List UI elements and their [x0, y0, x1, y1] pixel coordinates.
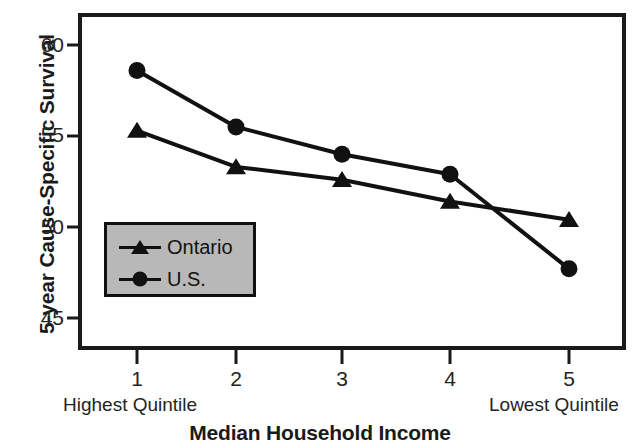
x-tick-label-1: 1: [117, 367, 157, 391]
chart-legend: Ontario U.S.: [104, 222, 256, 297]
annotation-lowest-quintile: Lowest Quintile: [489, 394, 619, 416]
legend-label-ontario: Ontario: [167, 236, 233, 259]
x-tick-label-3: 3: [322, 367, 362, 391]
data-point-circle: [442, 166, 459, 183]
annotation-highest-quintile: Highest Quintile: [63, 394, 197, 416]
x-axis-ticks: [137, 348, 569, 364]
circle-marker-icon: [117, 267, 163, 291]
data-point-triangle: [127, 122, 147, 138]
x-tick-label-4: 4: [430, 367, 470, 391]
data-point-circle: [334, 146, 351, 163]
x-tick-label-2: 2: [216, 367, 256, 391]
x-tick-label-5: 5: [549, 367, 589, 391]
data-point-circle: [561, 260, 578, 277]
x-axis-title: Median Household Income: [0, 421, 640, 441]
data-point-circle: [129, 62, 146, 79]
data-point-circle: [228, 118, 245, 135]
chart-figure: 5-year Cause-Specific Survival 60 55 50 …: [0, 0, 640, 441]
legend-item-ontario: Ontario: [107, 232, 253, 262]
plot-area: [0, 0, 640, 441]
series-line-ontario: [137, 131, 569, 220]
triangle-marker-icon: [117, 235, 163, 259]
legend-item-us: U.S.: [107, 264, 253, 294]
legend-label-us: U.S.: [167, 268, 206, 291]
